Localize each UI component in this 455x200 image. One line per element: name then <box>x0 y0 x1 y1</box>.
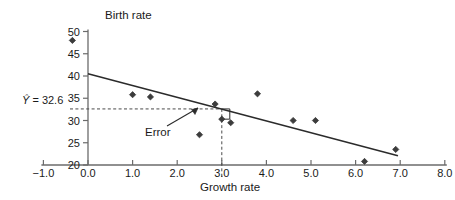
data-point <box>361 158 367 164</box>
scatter-chart: Birth rate Growth rate Ŷ = 32.6 Error −1… <box>0 0 455 200</box>
error-arrow-head <box>192 108 199 115</box>
y-axis-tick-label: 25 <box>40 138 80 149</box>
data-point <box>312 117 318 123</box>
y-axis-tick-label: 40 <box>40 71 80 82</box>
x-axis-tick-label: 8.0 <box>425 168 455 179</box>
x-axis-tick-label: 2.0 <box>157 168 197 179</box>
data-point <box>290 117 296 123</box>
y-axis-tick-label: 35 <box>40 93 80 104</box>
y-axis-tick-label: 45 <box>40 49 80 60</box>
x-axis-tick-label: 7.0 <box>380 168 420 179</box>
data-point <box>228 120 234 126</box>
data-point <box>196 132 202 138</box>
data-point <box>130 92 136 98</box>
x-axis-tick-label: 3.0 <box>202 168 242 179</box>
x-axis-tick-label: 1.0 <box>113 168 153 179</box>
y-axis-tick-label: 30 <box>40 116 80 127</box>
x-axis-tick-label: 5.0 <box>291 168 331 179</box>
data-point <box>69 37 75 43</box>
y-axis-tick-label: 20 <box>40 160 80 171</box>
data-point <box>147 94 153 100</box>
x-axis-tick-label: 4.0 <box>246 168 286 179</box>
y-axis-tick-label: 50 <box>40 27 80 38</box>
data-point <box>254 91 260 97</box>
x-axis-tick-label: 6.0 <box>336 168 376 179</box>
data-point <box>393 146 399 152</box>
data-point <box>219 116 225 122</box>
regression-line <box>88 74 398 156</box>
